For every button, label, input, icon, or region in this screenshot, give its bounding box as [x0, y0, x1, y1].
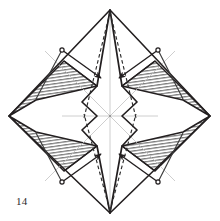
pivot-dot-lower-left — [60, 180, 64, 184]
figure-root: 14 — [0, 0, 220, 221]
pivot-dot-upper-right — [156, 48, 160, 52]
origami-diagram — [0, 0, 220, 221]
pivot-dot-upper-left — [60, 48, 64, 52]
center-point — [109, 115, 111, 117]
figure-number: 14 — [16, 196, 27, 207]
pivot-dot-lower-right — [156, 180, 160, 184]
